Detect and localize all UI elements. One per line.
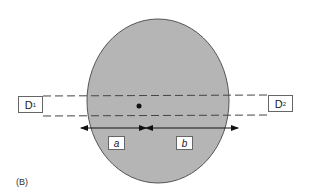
detector-d1-label: D1 [18, 96, 43, 113]
object-ellipse [87, 19, 229, 183]
detector-d2-subscript: 2 [283, 101, 286, 107]
beam-lower-line [43, 115, 268, 116]
segment-a-label: a [108, 136, 125, 150]
diagram-canvas [0, 0, 310, 196]
detector-d1-subscript: 1 [33, 102, 36, 108]
panel-label: (B) [16, 177, 28, 187]
detector-d2-letter: D [275, 98, 283, 110]
beam-upper-line [43, 95, 268, 96]
source-point [137, 104, 142, 109]
segment-b-label: b [176, 136, 193, 150]
detector-d2-label: D2 [268, 95, 293, 112]
detector-d1-letter: D [25, 99, 33, 111]
